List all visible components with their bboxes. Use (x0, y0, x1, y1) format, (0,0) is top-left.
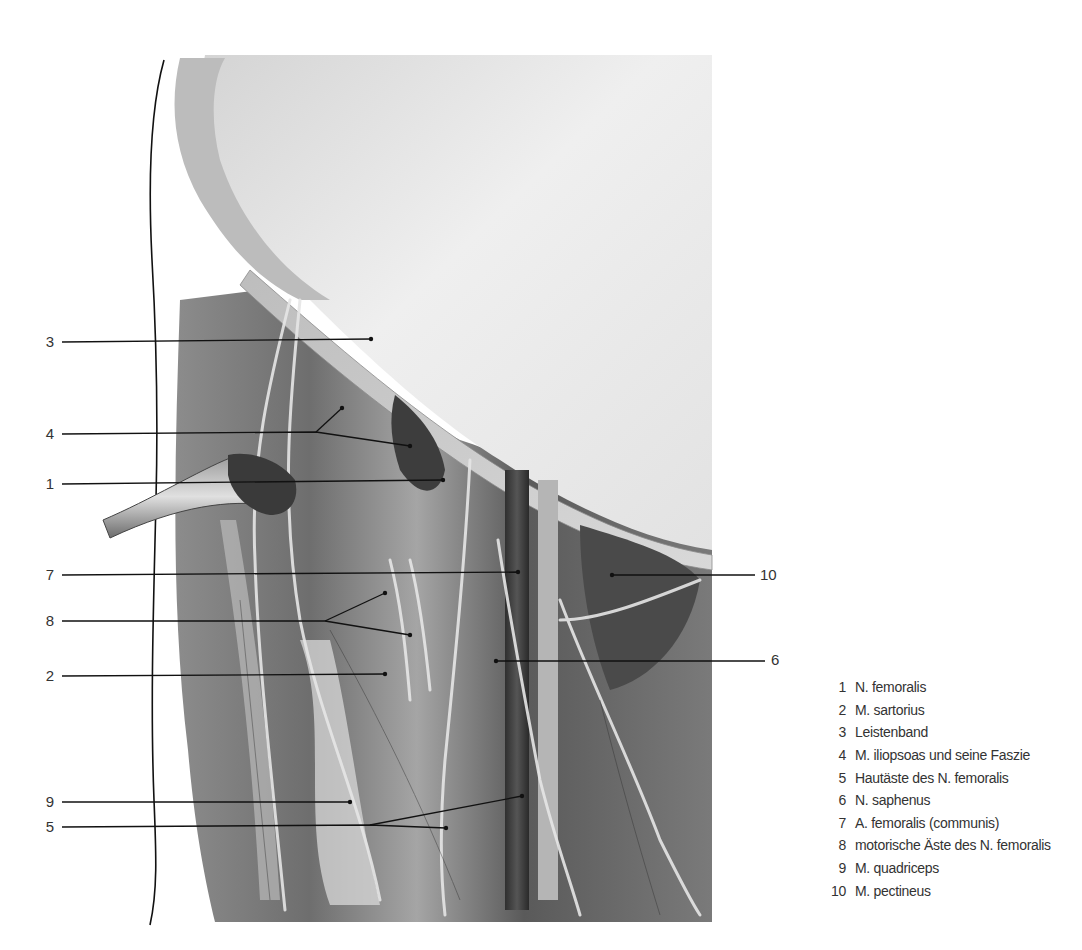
legend-text: A. femoralis (communis) (855, 815, 999, 831)
legend-item: 6N. saphenus (828, 789, 1051, 812)
legend-item: 9M. quadriceps (828, 857, 1051, 880)
callout-2: 2 (24, 668, 54, 684)
legend-number: 8 (828, 837, 846, 853)
legend-item: 7A. femoralis (communis) (828, 812, 1051, 835)
legend-number: 6 (828, 792, 846, 808)
legend-text: motorische Äste des N. femoralis (855, 837, 1051, 853)
legend-item: 3Leistenband (828, 721, 1051, 744)
callout-4: 4 (24, 426, 54, 442)
legend-number: 4 (828, 747, 846, 763)
figure-legend: 1N. femoralis 2M. sartorius 3Leistenband… (828, 676, 1051, 902)
callout-9: 9 (24, 794, 54, 810)
legend-number: 9 (828, 860, 846, 876)
legend-number: 10 (828, 883, 846, 899)
legend-item: 10M. pectineus (828, 879, 1051, 902)
legend-number: 1 (828, 679, 846, 695)
legend-item: 4M. iliopsoas und seine Faszie (828, 744, 1051, 767)
legend-number: 2 (828, 702, 846, 718)
legend-number: 7 (828, 815, 846, 831)
legend-text: N. femoralis (855, 679, 926, 695)
callout-8: 8 (24, 613, 54, 629)
legend-text: Hautäste des N. femoralis (855, 770, 1009, 786)
callout-5: 5 (24, 819, 54, 835)
legend-item: 8motorische Äste des N. femoralis (828, 834, 1051, 857)
legend-item: 1N. femoralis (828, 676, 1051, 699)
callout-10: 10 (760, 567, 776, 583)
legend-text: Leistenband (855, 724, 928, 740)
legend-text: M. iliopsoas und seine Faszie (855, 747, 1030, 763)
callout-7: 7 (24, 567, 54, 583)
legend-text: M. quadriceps (855, 860, 939, 876)
legend-item: 5Hautäste des N. femoralis (828, 766, 1051, 789)
legend-number: 5 (828, 770, 846, 786)
legend-item: 2M. sartorius (828, 699, 1051, 722)
callout-3: 3 (24, 334, 54, 350)
femoral-artery (505, 470, 529, 910)
legend-number: 3 (828, 724, 846, 740)
callout-1: 1 (24, 476, 54, 492)
callout-6: 6 (771, 652, 779, 668)
legend-text: M. pectineus (855, 883, 931, 899)
legend-text: M. sartorius (855, 702, 925, 718)
legend-text: N. saphenus (855, 792, 930, 808)
